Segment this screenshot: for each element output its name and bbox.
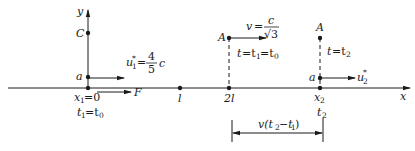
A-end-point [318,36,322,40]
y-axis-label: y [76,5,84,18]
u2-label: u 2 * [357,68,368,86]
svg-text:5: 5 [148,63,155,76]
t2-label: t 2 [317,106,327,120]
svg-text:=t: =t [332,45,346,58]
svg-text:0: 0 [99,111,104,120]
svg-text:): ) [295,118,299,131]
A-end-label: A [315,21,324,34]
origin-t-label: t 1 =t 0 [77,106,104,120]
svg-text:*: * [363,68,367,77]
point-C [86,31,90,35]
u1-formula: u 1 * = 4 5 c [126,50,165,76]
svg-text:c: c [268,14,274,27]
A-start-label: A [217,31,226,44]
svg-text:=t: =t [242,47,256,60]
svg-text:*: * [132,54,136,63]
svg-text:2: 2 [346,50,351,59]
relativity-diagram: x y C a u 1 * = 4 5 c x 1 =0 t 1 =t 0 F … [0,0,415,151]
svg-text:=t: =t [85,106,99,119]
svg-text:2: 2 [363,77,368,86]
a-end-label: a [309,71,316,84]
svg-text:=: = [254,20,263,33]
origin-x-label: x 1 =0 [74,91,100,105]
tick-2l-label: 2l [223,92,235,105]
force-label: F [133,86,142,99]
svg-text:=0: =0 [84,91,100,104]
start-time-label: t =t 1 =t 0 [237,47,279,61]
tick-l [178,86,182,90]
svg-text:=: = [137,56,146,69]
x-axis-label: x [400,90,407,103]
point-C-label: C [76,27,85,40]
tick-l-label: l [178,92,182,105]
x2-point [318,86,322,90]
v-formula: v = c √3 [246,14,279,41]
svg-text:√3: √3 [264,28,278,41]
dimension-label: v(t 2 −t 1 ) [258,118,299,132]
end-time-label: t =t 2 [327,45,351,59]
svg-text:c: c [159,57,165,70]
svg-text:0: 0 [274,52,279,61]
svg-text:4: 4 [148,50,155,63]
svg-text:v: v [246,20,253,33]
origin-point [86,86,90,90]
x2-label: x 2 [314,91,325,105]
point-a [86,75,90,79]
svg-text:=t: =t [260,47,274,60]
svg-text:v(t: v(t [258,118,274,131]
svg-text:2: 2 [320,96,325,105]
point-a-label: a [76,70,83,83]
